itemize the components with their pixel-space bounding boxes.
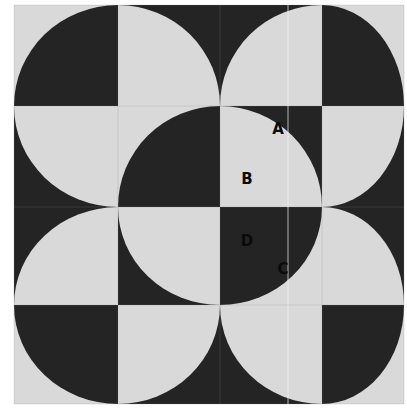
tile-r2-c1	[118, 207, 220, 305]
tile-grid	[14, 5, 404, 404]
tile-r3-c0	[14, 305, 118, 404]
tile-r0-c2	[220, 5, 322, 106]
tile-r2-c0	[14, 207, 118, 305]
tile-r3-c2	[220, 305, 322, 404]
tile-r2-c3	[322, 207, 404, 305]
tile-r1-c1	[118, 106, 220, 207]
tile-r1-c3	[322, 106, 404, 207]
tile-r3-c3	[322, 305, 404, 404]
tile-r2-c2	[220, 207, 322, 305]
tile-r1-c2	[220, 106, 322, 207]
label-d: D	[241, 232, 253, 250]
tile-r0-c3	[322, 5, 404, 106]
tile-r0-c0	[14, 5, 118, 106]
label-a: A	[272, 120, 284, 138]
illusion-figure: A B D C	[0, 0, 407, 417]
label-c: C	[277, 260, 288, 278]
tile-r0-c1	[118, 5, 220, 106]
label-b: B	[241, 170, 252, 188]
tile-r1-c0	[14, 106, 118, 207]
tile-r3-c1	[118, 305, 220, 404]
